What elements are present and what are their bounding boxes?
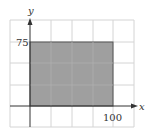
rectangle-region-chart: x y 75 100 <box>0 0 151 138</box>
y-axis-label: y <box>27 5 34 16</box>
shaded-region <box>30 42 113 106</box>
y-axis-arrow-icon <box>28 18 33 25</box>
y-tick-label: 75 <box>16 37 29 48</box>
x-axis-label: x <box>139 101 145 112</box>
x-tick-label: 100 <box>103 112 122 123</box>
